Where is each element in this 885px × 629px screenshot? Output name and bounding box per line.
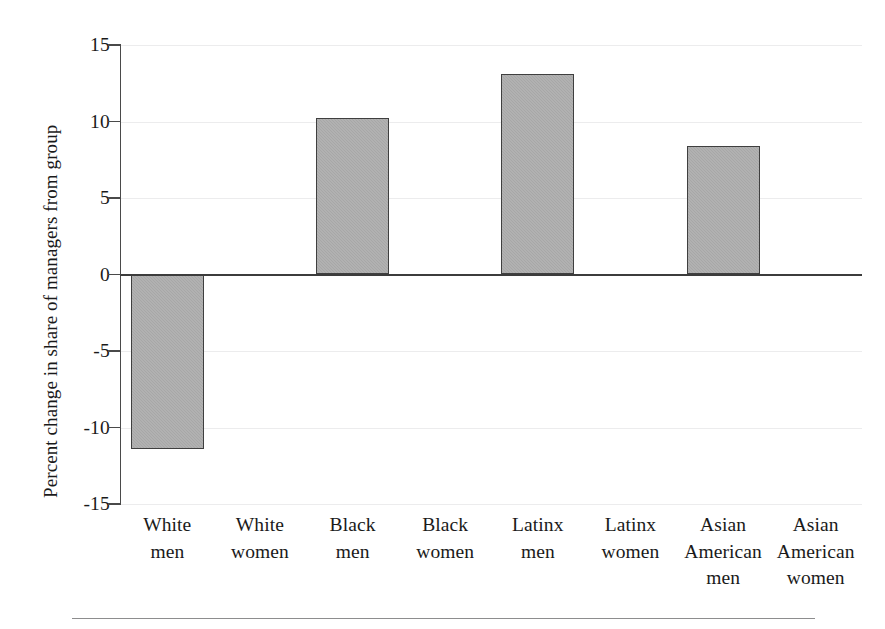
x-axis-category-label-line: men: [306, 539, 399, 566]
x-axis-category-label-line: men: [121, 539, 214, 566]
x-axis-category-label-line: women: [769, 565, 862, 592]
x-axis-category-label-line: men: [492, 539, 585, 566]
gridline: [121, 428, 862, 429]
x-axis-category-label-line: Latinx: [492, 512, 585, 539]
y-axis-tick-label: 15: [52, 35, 110, 55]
x-axis-category-label-line: women: [399, 539, 492, 566]
x-axis-category-label: Whitewomen: [214, 512, 307, 565]
x-axis-category-label: Blackmen: [306, 512, 399, 565]
x-axis-category-label-line: men: [677, 565, 770, 592]
y-axis-tick-label: -15: [52, 494, 110, 514]
y-axis-tick-mark: [108, 503, 121, 504]
x-axis-category-label-line: women: [584, 539, 677, 566]
bar: [316, 118, 389, 274]
x-axis-category-label: AsianAmericanwomen: [769, 512, 862, 592]
x-axis-category-label: Latinxmen: [492, 512, 585, 565]
y-axis-tick-mark: [108, 44, 121, 45]
y-axis-tick-label: -10: [52, 418, 110, 438]
gridline: [121, 351, 862, 352]
x-axis-category-label: Latinxwomen: [584, 512, 677, 565]
x-axis-category-label-line: Black: [306, 512, 399, 539]
y-axis-tick-label: 0: [52, 265, 110, 285]
y-axis-tick-label: 5: [52, 188, 110, 208]
y-axis-tick-mark: [108, 121, 121, 122]
y-axis-tick-mark: [108, 274, 121, 275]
x-axis-category-label-line: Black: [399, 512, 492, 539]
y-axis-tick-label: -5: [52, 341, 110, 361]
footer-rule: [72, 618, 815, 619]
x-axis-category-label-line: Latinx: [584, 512, 677, 539]
zero-baseline: [120, 274, 862, 276]
x-axis-category-label-line: women: [214, 539, 307, 566]
x-axis-category-label-line: American: [769, 539, 862, 566]
x-axis-category-label-line: Asian: [769, 512, 862, 539]
gridline: [121, 45, 862, 46]
x-axis-category-label: Blackwomen: [399, 512, 492, 565]
y-axis-tick-mark: [108, 197, 121, 198]
x-axis-category-label-line: White: [214, 512, 307, 539]
x-axis-category-label-line: American: [677, 539, 770, 566]
bar-chart-figure: Percent change in share of managers from…: [0, 0, 885, 629]
x-axis-tick-labels: WhitemenWhitewomenBlackmenBlackwomenLati…: [0, 512, 885, 607]
gridline: [121, 504, 862, 505]
x-axis-category-label: Whitemen: [121, 512, 214, 565]
y-axis-tick-label: 10: [52, 112, 110, 132]
x-axis-category-label-line: Asian: [677, 512, 770, 539]
x-axis-category-label: AsianAmericanmen: [677, 512, 770, 592]
bar: [501, 74, 574, 274]
gridline: [121, 122, 862, 123]
bar: [687, 146, 760, 275]
y-axis-tick-mark: [108, 427, 121, 428]
y-axis-tick-mark: [108, 350, 121, 351]
bar: [131, 275, 204, 449]
x-axis-category-label-line: White: [121, 512, 214, 539]
